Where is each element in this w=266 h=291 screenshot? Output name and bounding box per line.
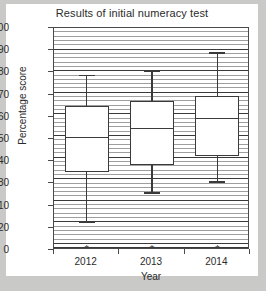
box-plot-upper-cap xyxy=(209,52,225,53)
box-plot-lower-cap xyxy=(79,221,95,222)
box-plot-lower-cap xyxy=(144,192,160,193)
box-plot-lower-whisker xyxy=(151,165,152,193)
y-axis-tick-mark xyxy=(48,71,53,72)
box-plot-box xyxy=(130,101,174,164)
y-axis-tick-mark xyxy=(48,160,53,161)
x-axis-tick-label: 2014 xyxy=(186,256,246,267)
box-plot-upper-cap xyxy=(144,70,160,71)
box-plot-box xyxy=(195,96,239,156)
y-axis-tick-mark xyxy=(48,205,53,206)
y-axis-title: Percentage score xyxy=(17,46,28,166)
box-plot-median-line xyxy=(65,137,109,138)
box-plot-box xyxy=(65,106,109,173)
y-axis-tick-label: 60 xyxy=(0,110,9,121)
y-axis-tick-mark xyxy=(48,182,53,183)
chart-title: Results of initial numeracy test xyxy=(6,7,258,19)
y-axis-tick-label: 50 xyxy=(0,133,9,144)
x-axis-tick-mark xyxy=(53,249,54,254)
y-axis-tick-mark xyxy=(48,116,53,117)
y-axis-tick-label: 0 xyxy=(0,244,9,255)
y-axis-tick-label: 100 xyxy=(0,22,9,33)
y-axis-tick-label: 90 xyxy=(0,44,9,55)
x-axis-tick-label: 2013 xyxy=(121,256,181,267)
y-axis-tick-label: 70 xyxy=(0,88,9,99)
box-plot-upper-whisker xyxy=(151,70,152,101)
x-axis-tick-mark xyxy=(118,249,119,254)
box-plot-upper-whisker xyxy=(86,75,87,106)
box-plot-lower-whisker xyxy=(86,172,87,221)
y-axis-tick-label: 30 xyxy=(0,177,9,188)
x-axis-tick-mark xyxy=(249,249,250,254)
y-axis-tick-mark xyxy=(48,49,53,50)
box-plot-outlier-marker: * xyxy=(85,244,89,250)
x-axis-tick-label: 2012 xyxy=(56,256,116,267)
y-axis-tick-mark xyxy=(48,138,53,139)
x-axis-title: Year xyxy=(53,271,249,282)
box-plot-outlier-marker: * xyxy=(150,244,154,250)
box-plot-lower-whisker xyxy=(217,156,218,182)
box-plot-upper-cap xyxy=(79,75,95,76)
y-axis-tick-mark xyxy=(48,94,53,95)
box-plot-median-line xyxy=(130,128,174,129)
plot-area: *** xyxy=(53,27,249,249)
y-axis-tick-label: 20 xyxy=(0,221,9,232)
y-axis-tick-label: 80 xyxy=(0,66,9,77)
box-plot-upper-whisker xyxy=(217,52,218,95)
box-plot-outlier-marker: * xyxy=(215,244,219,250)
chart-screenshot: Results of initial numeracy test Percent… xyxy=(0,0,266,291)
box-plot-median-line xyxy=(195,118,239,119)
y-axis-tick-mark xyxy=(48,27,53,28)
y-axis-tick-label: 10 xyxy=(0,199,9,210)
chart-card: Results of initial numeracy test Percent… xyxy=(6,4,258,276)
y-axis-tick-label: 40 xyxy=(0,155,9,166)
box-plot-lower-cap xyxy=(209,181,225,182)
x-axis-tick-mark xyxy=(184,249,185,254)
y-axis-tick-mark xyxy=(48,227,53,228)
